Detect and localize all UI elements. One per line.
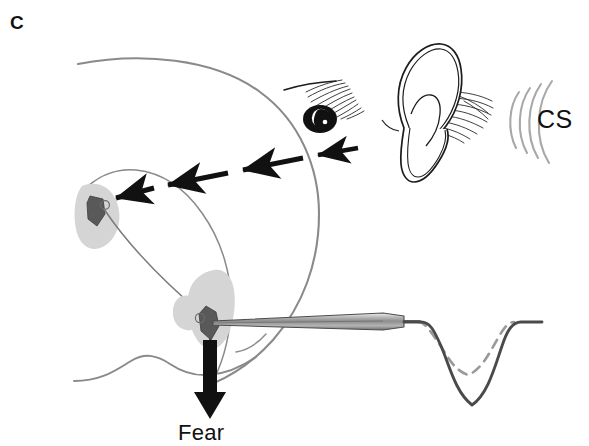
panel-label: C (10, 12, 24, 33)
pathway-segment-4 (116, 188, 154, 198)
mouse-eye-icon (303, 105, 337, 133)
electrode-body (213, 313, 404, 330)
figure-canvas: C (0, 0, 589, 446)
ventral-brain-edge (74, 356, 256, 381)
ear-base-line (382, 120, 399, 131)
evoked-potential-traces (404, 322, 542, 405)
ventral-medial-edge (236, 334, 266, 352)
figure-panel-c: C (0, 0, 589, 446)
eye-highlight (323, 120, 328, 125)
head-contour-line (284, 81, 336, 90)
cs-label: CS (537, 105, 573, 133)
fear-arrow-shaft (203, 340, 217, 398)
pathway-segment-3 (168, 173, 228, 185)
pathway-segment-1 (318, 148, 358, 155)
trace-post-conditioning (404, 322, 542, 405)
recording-electrode-icon (213, 313, 420, 330)
sound-arc-1 (510, 92, 519, 148)
fear-label: Fear (178, 420, 224, 445)
thalamic-nucleus-region (75, 184, 120, 249)
pathway-segment-2 (243, 158, 303, 170)
amygdala-halo-lateral (173, 296, 201, 331)
fear-arrow-head (194, 392, 226, 419)
